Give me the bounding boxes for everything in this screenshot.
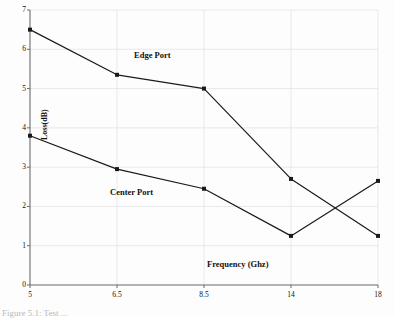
figure-caption: Figure 5.1: Test ...: [2, 308, 67, 318]
data-point-marker: [28, 28, 32, 32]
data-point-marker: [202, 87, 206, 91]
data-point-marker: [28, 134, 32, 138]
gridlines-group: [30, 10, 378, 285]
y-tick-label: 4: [16, 123, 26, 132]
y-axis-title: Loss(dB): [40, 109, 49, 140]
y-tick-label: 5: [16, 84, 26, 93]
x-axis-title: Frequency (Ghz): [207, 259, 268, 269]
y-tick-label: 2: [16, 201, 26, 210]
series-label-center-port: Center Port: [110, 187, 153, 197]
series-label-edge-port: Edge Port: [134, 50, 171, 60]
x-tick-label: 5: [18, 290, 42, 299]
x-tick-label: 18: [366, 290, 390, 299]
data-point-marker: [376, 179, 380, 183]
data-point-marker: [289, 234, 293, 238]
y-tick-label: 3: [16, 162, 26, 171]
data-point-marker: [115, 73, 119, 77]
data-point-marker: [376, 234, 380, 238]
data-point-marker: [115, 167, 119, 171]
y-tick-label: 0: [16, 280, 26, 289]
data-point-marker: [202, 187, 206, 191]
y-tick-label: 7: [16, 5, 26, 14]
y-tick-label: 6: [16, 44, 26, 53]
x-tick-label: 6.5: [105, 290, 129, 299]
data-point-marker: [289, 177, 293, 181]
x-tick-label: 14: [279, 290, 303, 299]
axes-group: [27, 10, 378, 288]
y-tick-label: 1: [16, 241, 26, 250]
x-tick-label: 8.5: [192, 290, 216, 299]
